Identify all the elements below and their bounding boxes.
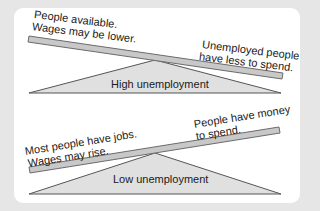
high-unemployment-label: High unemployment — [111, 78, 209, 90]
low-unemployment-label: Low unemployment — [113, 173, 208, 185]
